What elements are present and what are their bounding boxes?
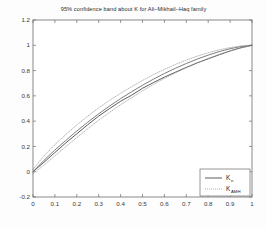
figure-window: 95% confidence band about K for Ali–Mikh…	[0, 0, 267, 227]
y-tick-label: 0.2	[21, 143, 30, 150]
legend-box	[200, 169, 250, 196]
y-tick-label: 0.4	[21, 117, 30, 124]
y-tick-label: 1	[27, 41, 31, 48]
x-tick-label: 0.8	[204, 200, 213, 207]
x-tick-label: 0.1	[51, 200, 60, 207]
x-axis-tick-labels: 00.10.20.30.40.50.60.70.80.91	[31, 200, 254, 207]
x-tick-label: 0.3	[94, 200, 103, 207]
y-tick-label: -0.2	[19, 193, 30, 200]
y-axis-tick-labels: -0.200.20.40.60.811.2	[19, 16, 30, 200]
x-tick-label: 0.2	[72, 200, 81, 207]
legend-entry-kamh-subscript: AMH	[231, 189, 241, 194]
x-tick-label: 0.5	[138, 200, 147, 207]
x-tick-label: 1	[250, 200, 254, 207]
y-tick-label: 1.2	[21, 16, 30, 23]
legend[interactable]: K n K AMH	[200, 169, 250, 196]
y-tick-label: 0.8	[21, 67, 30, 74]
x-tick-label: 0.6	[160, 200, 169, 207]
x-tick-label: 0.4	[116, 200, 125, 207]
y-tick-label: 0.6	[21, 92, 30, 99]
plot-canvas: 00.10.20.30.40.50.60.70.80.91 -0.200.20.…	[0, 0, 267, 227]
x-tick-label: 0.7	[182, 200, 191, 207]
y-tick-label: 0	[27, 168, 31, 175]
x-tick-label: 0.9	[226, 200, 235, 207]
x-tick-label: 0	[31, 200, 35, 207]
